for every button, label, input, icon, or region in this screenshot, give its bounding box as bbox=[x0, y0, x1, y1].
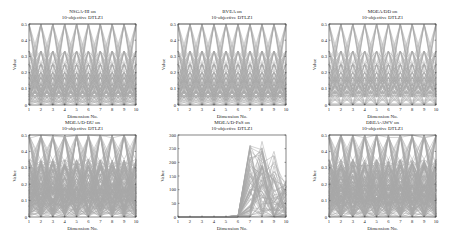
x-tick-label: 3 bbox=[201, 107, 204, 112]
y-tick-label: 0.4 bbox=[321, 38, 327, 43]
x-tick-label: 7 bbox=[99, 107, 102, 112]
x-tick-label: 2 bbox=[189, 219, 192, 224]
chart-title: 10-objective DTLZ1 bbox=[62, 15, 104, 20]
x-tick-label: 5 bbox=[75, 219, 78, 224]
x-tick-label: 6 bbox=[387, 107, 390, 112]
y-axis-label: Value bbox=[12, 58, 17, 70]
y-tick-label: 0.1 bbox=[170, 86, 176, 91]
figure-canvas: 00.10.20.30.40.512345678910NSGA-III on10… bbox=[0, 0, 449, 238]
x-tick-label: 7 bbox=[399, 219, 402, 224]
y-tick-label: 250 bbox=[169, 146, 177, 151]
chart-moea-d-pas: 05010015020025030012345678910MOEA/D-PaS … bbox=[160, 120, 289, 231]
x-tick-label: 8 bbox=[411, 107, 414, 112]
x-tick-label: 5 bbox=[375, 219, 378, 224]
x-tick-label: 10 bbox=[134, 107, 139, 112]
x-tick-label: 1 bbox=[177, 107, 180, 112]
y-tick-label: 0.4 bbox=[170, 38, 176, 43]
x-tick-label: 6 bbox=[87, 107, 90, 112]
x-tick-label: 4 bbox=[364, 219, 367, 224]
x-tick-label: 4 bbox=[64, 219, 67, 224]
y-tick-label: 0.2 bbox=[21, 182, 27, 187]
x-tick-label: 8 bbox=[411, 219, 414, 224]
x-tick-label: 1 bbox=[177, 219, 180, 224]
x-tick-label: 2 bbox=[189, 107, 192, 112]
y-axis-label: Value bbox=[312, 170, 317, 182]
y-tick-label: 0.3 bbox=[21, 165, 27, 170]
chart-moea-d-du: 00.10.20.30.40.512345678910MOEA/D-DU on1… bbox=[12, 120, 139, 231]
x-tick-label: 5 bbox=[375, 107, 378, 112]
x-tick-label: 8 bbox=[261, 107, 264, 112]
x-tick-label: 3 bbox=[52, 107, 55, 112]
x-tick-label: 1 bbox=[328, 219, 331, 224]
x-tick-label: 8 bbox=[111, 219, 114, 224]
data-lines bbox=[29, 24, 136, 105]
y-tick-label: 0.4 bbox=[321, 149, 327, 154]
chart-title: 10-objective DTLZ1 bbox=[211, 126, 253, 131]
x-tick-label: 10 bbox=[434, 107, 439, 112]
x-tick-label: 4 bbox=[64, 107, 67, 112]
y-tick-label: 100 bbox=[169, 187, 177, 192]
x-tick-label: 4 bbox=[213, 219, 216, 224]
x-tick-label: 10 bbox=[284, 219, 289, 224]
x-tick-label: 10 bbox=[284, 107, 289, 112]
y-tick-label: 50 bbox=[171, 201, 176, 206]
y-tick-label: 0.2 bbox=[321, 182, 327, 187]
y-tick-label: 0.2 bbox=[321, 70, 327, 75]
chart-title: NSGA-III on bbox=[69, 9, 96, 14]
y-tick-label: 0.1 bbox=[21, 198, 27, 203]
x-tick-label: 6 bbox=[237, 219, 240, 224]
y-tick-label: 0.1 bbox=[321, 86, 327, 91]
chart-moea-dd: 00.10.20.30.40.512345678910MOEA/DD on10-… bbox=[312, 9, 439, 119]
x-tick-label: 3 bbox=[352, 219, 355, 224]
x-tick-label: 4 bbox=[213, 107, 216, 112]
x-tick-label: 9 bbox=[273, 219, 276, 224]
chart-title: 10-objective DTLZ1 bbox=[362, 15, 404, 20]
x-tick-label: 9 bbox=[423, 107, 426, 112]
y-axis-label: Value bbox=[161, 58, 166, 70]
x-tick-label: 9 bbox=[273, 107, 276, 112]
data-lines bbox=[178, 141, 286, 217]
y-tick-label: 0.3 bbox=[321, 54, 327, 59]
y-axis-label: Value bbox=[160, 170, 165, 182]
chart-title: 10-objective DTLZ1 bbox=[362, 126, 404, 131]
data-lines bbox=[178, 24, 286, 105]
y-tick-label: 0.5 bbox=[21, 133, 27, 138]
data-lines bbox=[329, 24, 436, 105]
y-tick-label: 0.3 bbox=[170, 54, 176, 59]
x-tick-label: 5 bbox=[75, 107, 78, 112]
y-tick-label: 0.5 bbox=[321, 133, 327, 138]
y-tick-label: 0.5 bbox=[321, 22, 327, 27]
x-tick-label: 10 bbox=[434, 219, 439, 224]
chart-title: BVEA on bbox=[222, 9, 242, 14]
x-axis-label: Dimension No. bbox=[367, 226, 398, 231]
x-tick-label: 5 bbox=[225, 219, 228, 224]
x-tick-label: 7 bbox=[399, 107, 402, 112]
chart-title: MOEA/D-DU on bbox=[65, 120, 100, 125]
y-tick-label: 0.1 bbox=[321, 198, 327, 203]
x-axis-label: Dimension No. bbox=[67, 226, 98, 231]
x-tick-label: 9 bbox=[123, 219, 126, 224]
x-tick-label: 1 bbox=[328, 107, 331, 112]
y-tick-label: 0.4 bbox=[21, 149, 27, 154]
chart-title: MOEA/DD on bbox=[368, 9, 398, 14]
x-tick-label: 7 bbox=[249, 107, 252, 112]
x-tick-label: 6 bbox=[87, 219, 90, 224]
chart-nsga-iii: 00.10.20.30.40.512345678910NSGA-III on10… bbox=[12, 9, 139, 119]
y-tick-label: 0.4 bbox=[21, 38, 27, 43]
y-tick-label: 0.5 bbox=[170, 22, 176, 27]
x-tick-label: 3 bbox=[201, 219, 204, 224]
x-tick-label: 7 bbox=[249, 219, 252, 224]
y-tick-label: 0.1 bbox=[21, 86, 27, 91]
x-tick-label: 4 bbox=[364, 107, 367, 112]
x-tick-label: 3 bbox=[52, 219, 55, 224]
x-tick-label: 3 bbox=[352, 107, 355, 112]
x-tick-label: 1 bbox=[28, 107, 31, 112]
x-tick-label: 6 bbox=[237, 107, 240, 112]
chart-title: 10-objective DTLZ1 bbox=[62, 126, 104, 131]
y-tick-label: 0.5 bbox=[21, 22, 27, 27]
x-tick-label: 9 bbox=[423, 219, 426, 224]
data-lines bbox=[329, 135, 436, 217]
chart-bvea: 00.10.20.30.40.512345678910BVEA on10-obj… bbox=[161, 9, 289, 119]
figure: 00.10.20.30.40.512345678910NSGA-III on10… bbox=[0, 0, 449, 238]
x-tick-label: 6 bbox=[387, 219, 390, 224]
